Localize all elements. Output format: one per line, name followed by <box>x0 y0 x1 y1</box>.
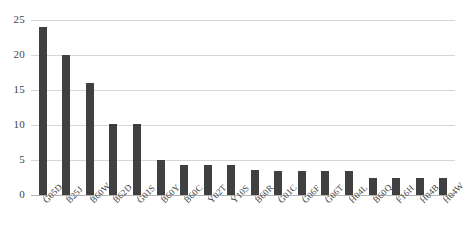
y-axis: 0510152025 <box>0 20 461 195</box>
y-axis-tick-label: 10 <box>0 119 25 130</box>
y-axis-tick-label: 15 <box>0 84 25 95</box>
y-axis-tick-label: 5 <box>0 154 25 165</box>
x-axis: G05DB25JB60WB62DG01SB60YB60CY02TY10SB60R… <box>31 196 455 252</box>
y-axis-tick-label: 0 <box>0 189 25 200</box>
y-axis-tick-label: 20 <box>0 49 25 60</box>
y-axis-tick-label: 25 <box>0 14 25 25</box>
